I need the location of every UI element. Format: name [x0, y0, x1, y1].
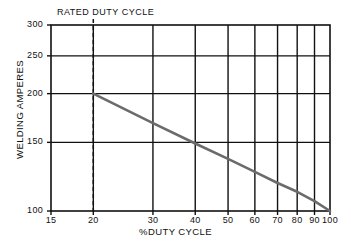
- x-tick-label-30: 30: [140, 215, 166, 225]
- x-tick-label-50: 50: [215, 215, 241, 225]
- x-tick-label-15: 15: [38, 215, 64, 225]
- plot-area: [0, 0, 351, 250]
- x-tick-label-40: 40: [182, 215, 208, 225]
- derating-curve: [93, 94, 330, 211]
- chart-figure: RATED DUTY CYCLE WELDING AMPERES %DUTY C…: [0, 0, 351, 250]
- vertical-gridlines: [93, 25, 314, 211]
- y-tick-label-100: 100: [13, 205, 43, 215]
- y-tick-label-300: 300: [13, 19, 43, 29]
- x-tick-label-20: 20: [80, 215, 106, 225]
- x-tick-label-100: 100: [317, 215, 343, 225]
- y-tick-label-150: 150: [13, 136, 43, 146]
- y-tick-label-250: 250: [13, 50, 43, 60]
- y-tick-label-200: 200: [13, 88, 43, 98]
